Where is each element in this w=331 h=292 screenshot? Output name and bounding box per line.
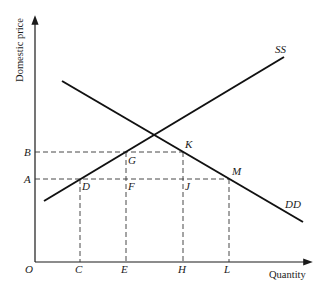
supply-demand-diagram: Domestic price Quantity O B A C E H L G …: [0, 0, 331, 292]
point-label-g: G: [128, 154, 136, 166]
y-axis-label: Domestic price: [14, 18, 25, 82]
demand-curve-dd: [62, 81, 303, 222]
x-axis-label: Quantity: [269, 269, 306, 280]
quantity-label-c: C: [75, 263, 83, 275]
guide-lines: [35, 152, 229, 262]
quantity-label-h: H: [177, 263, 187, 275]
curve-label-dd: DD: [284, 198, 301, 210]
price-label-a: A: [23, 173, 31, 185]
point-label-f: F: [127, 180, 135, 192]
quantity-label-l: L: [223, 263, 230, 275]
origin-label: O: [25, 263, 33, 275]
point-label-d: D: [81, 180, 90, 192]
point-label-j: J: [185, 180, 191, 192]
price-label-b: B: [24, 146, 31, 158]
point-label-k: K: [184, 138, 193, 150]
point-label-m: M: [231, 165, 242, 177]
quantity-label-e: E: [120, 263, 128, 275]
curve-label-ss: SS: [275, 43, 287, 55]
